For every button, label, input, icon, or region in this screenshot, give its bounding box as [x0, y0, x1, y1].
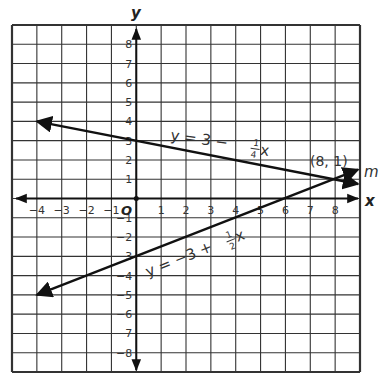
x-tick-label: 3 [207, 204, 214, 217]
x-tick-label: 1 [158, 204, 165, 217]
y-tick-label: 3 [125, 135, 132, 148]
y-tick-label: −4 [116, 270, 132, 283]
eq2-main: y = −3 + [143, 238, 215, 281]
coordinate-plane: −4−3−2−11234567887654321−1−2−3−4−5−6−7−8… [0, 0, 381, 375]
eq2-var: x [232, 226, 247, 246]
origin-dot [134, 196, 139, 201]
y-tick-label: 5 [125, 96, 132, 109]
x-tick-label: −2 [78, 204, 94, 217]
eq1-var: x [259, 141, 270, 160]
y-tick-label: −6 [116, 308, 132, 321]
y-tick-label: 1 [125, 173, 132, 186]
x-tick-label: 8 [332, 204, 339, 217]
y-tick-label: −2 [116, 231, 132, 244]
x-tick-label: 2 [183, 204, 190, 217]
y-tick-label: −7 [116, 327, 132, 340]
x-tick-label: −4 [29, 204, 45, 217]
x-axis-label: x [364, 192, 376, 210]
y-tick-label: 4 [125, 115, 132, 128]
x-tick-label: 6 [282, 204, 289, 217]
y-axis-label: y [131, 4, 142, 22]
x-tick-label: −3 [54, 204, 70, 217]
intersection-label: (8, 1) [310, 153, 348, 169]
axes [16, 29, 358, 370]
x-tick-label: 4 [232, 204, 239, 217]
eq1-numerator: 1 [253, 138, 260, 149]
y-tick-label: 7 [125, 58, 132, 71]
y-tick-label: 8 [125, 38, 132, 51]
y-tick-label: 6 [125, 77, 132, 90]
eq1-denominator: 4 [250, 149, 257, 160]
y-tick-label: −8 [116, 347, 132, 360]
x-tick-label: 7 [307, 204, 314, 217]
line-m-label: m [364, 163, 379, 181]
y-tick-label: 2 [125, 154, 132, 167]
y-tick-label: −5 [116, 289, 132, 302]
origin-label: O [121, 203, 132, 218]
